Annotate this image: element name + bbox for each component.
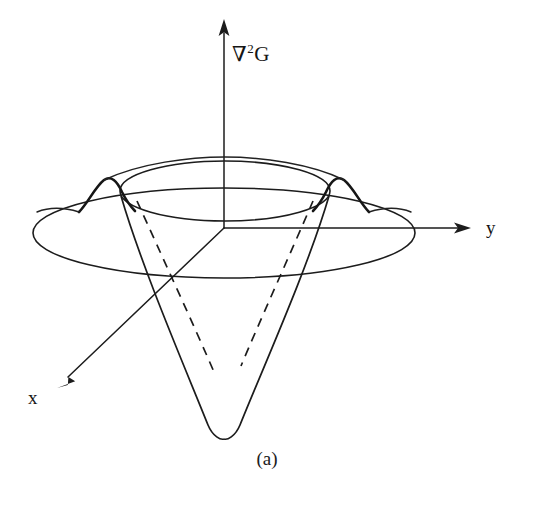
x-axis [57,228,224,388]
funnel-right-wall [224,196,329,439]
figure-caption: (a) [0,448,534,470]
nabla-symbol: ∇ [232,42,247,66]
y-axis [224,223,471,234]
profile-hump-left [79,178,135,212]
vertical-axis-label: ∇2G [232,44,270,65]
x-axis-label: x [28,388,38,407]
plot-canvas [0,0,534,514]
nabla-suffix: G [254,42,270,66]
funnel-hidden-right [241,201,313,366]
y-axis-label: y [486,218,496,237]
funnel-left-wall [121,196,224,439]
figure-root: ∇2G y x (a) [0,0,534,514]
axes-group [57,19,471,388]
vertical-axis [219,19,230,228]
profile-hump-right [313,178,369,212]
x-axis-line [68,228,224,377]
central-funnel [121,196,329,439]
x-axis-arrowhead [57,377,75,388]
